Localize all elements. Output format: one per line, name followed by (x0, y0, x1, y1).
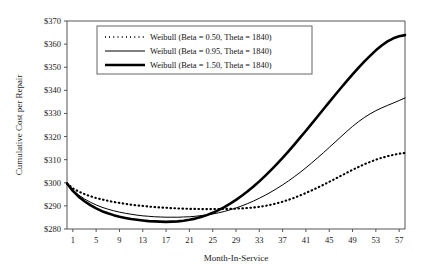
y-tick-label: $340 (44, 85, 61, 95)
x-tick-label: 1 (71, 235, 75, 245)
legend-label: Weibull (Beta = 1.50, Theta = 1840) (150, 61, 272, 70)
x-tick-label: 5 (94, 235, 98, 245)
y-tick-label: $350 (44, 62, 61, 72)
x-tick-label: 49 (348, 235, 357, 245)
y-tick-label: $290 (44, 201, 61, 211)
x-tick-label: 9 (117, 235, 121, 245)
x-tick-label: 17 (162, 235, 171, 245)
y-tick-label: $280 (44, 224, 61, 234)
y-axis-title: Cumulative Cost per Repair (14, 75, 24, 176)
x-tick-label: 41 (302, 235, 311, 245)
y-tick-label: $370 (44, 16, 61, 26)
x-tick-label: 29 (232, 235, 241, 245)
x-tick-label: 25 (208, 235, 217, 245)
x-tick-label: 45 (325, 235, 334, 245)
x-axis-title: Month-In-Service (204, 253, 268, 263)
legend-label: Weibull (Beta = 0.95, Theta = 1840) (150, 47, 272, 56)
x-tick-label: 57 (395, 235, 404, 245)
y-tick-label: $360 (44, 39, 61, 49)
y-tick-label: $320 (44, 132, 61, 142)
chart-legend: Weibull (Beta = 0.50, Theta = 1840)Weibu… (97, 26, 312, 74)
x-tick-label: 33 (255, 235, 264, 245)
x-tick-label: 37 (278, 235, 287, 245)
y-tick-label: $310 (44, 155, 61, 165)
chart-root: $280$290$300$310$320$330$340$350$360$370… (0, 0, 426, 276)
x-tick-label: 13 (139, 235, 148, 245)
legend-label: Weibull (Beta = 0.50, Theta = 1840) (150, 33, 272, 42)
x-tick-label: 21 (185, 235, 194, 245)
y-tick-label: $300 (44, 178, 61, 188)
x-tick-label: 53 (372, 235, 381, 245)
cumulative-cost-line-chart: $280$290$300$310$320$330$340$350$360$370… (0, 0, 426, 276)
y-tick-label: $330 (44, 108, 61, 118)
